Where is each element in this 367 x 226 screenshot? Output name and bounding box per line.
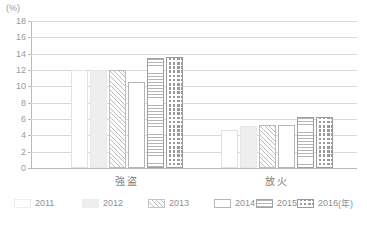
bar-2015-強盗 bbox=[147, 58, 165, 168]
y-axis-tick bbox=[28, 70, 31, 71]
legend-label-2014: 2014 bbox=[235, 198, 255, 208]
bar-2014-強盗 bbox=[128, 82, 146, 168]
plot-area: 024681012141618 bbox=[31, 21, 357, 168]
legend-swatch-2013 bbox=[148, 199, 165, 208]
legend-swatch-2014 bbox=[214, 199, 231, 208]
legend-label-2016: 2016 bbox=[318, 198, 338, 208]
bar-2013-放火 bbox=[259, 125, 277, 168]
y-axis-tick bbox=[28, 152, 31, 153]
y-axis-tick-label: 14 bbox=[16, 49, 26, 59]
bar-2015-放火 bbox=[297, 117, 315, 168]
y-axis-tick bbox=[28, 21, 31, 22]
bar-2016-強盗 bbox=[166, 57, 184, 168]
y-axis-tick-label: 6 bbox=[21, 114, 26, 124]
y-axis-tick bbox=[28, 54, 31, 55]
legend-item-2012[interactable]: 2012 bbox=[82, 196, 123, 210]
bar-chart: (%) 024681012141618 20112012201320142015… bbox=[0, 0, 367, 226]
legend-item-2011[interactable]: 2011 bbox=[14, 196, 54, 210]
legend-label-2013: 2013 bbox=[169, 198, 189, 208]
legend-item-2013[interactable]: 2013 bbox=[148, 196, 189, 210]
y-axis-tick bbox=[28, 86, 31, 87]
bar-2012-放火 bbox=[240, 126, 258, 168]
bar-2011-強盗 bbox=[71, 70, 89, 168]
y-axis-tick-label: 4 bbox=[21, 130, 26, 140]
legend-swatch-2016 bbox=[297, 199, 314, 208]
y-axis-tick-label: 10 bbox=[16, 81, 26, 91]
bar-2011-放火 bbox=[221, 130, 239, 168]
legend-swatch-2012 bbox=[82, 199, 99, 208]
chart-legend: 201120122013201420152016(年) bbox=[0, 196, 367, 218]
legend-swatch-2015 bbox=[256, 199, 273, 208]
x-axis-category-label: 強盗 bbox=[115, 173, 139, 188]
y-axis-tick bbox=[28, 37, 31, 38]
x-axis-category-label: 放火 bbox=[265, 173, 289, 188]
x-axis-line bbox=[31, 168, 357, 169]
y-axis-tick-label: 16 bbox=[16, 32, 26, 42]
y-axis-tick-label: 2 bbox=[21, 147, 26, 157]
legend-item-2016[interactable]: 2016 bbox=[297, 196, 338, 210]
y-axis-tick bbox=[28, 119, 31, 120]
y-axis-tick bbox=[28, 135, 31, 136]
y-axis-tick bbox=[28, 103, 31, 104]
y-axis-tick bbox=[28, 168, 31, 169]
legend-unit-label: (年) bbox=[338, 196, 353, 210]
bar-2012-強盗 bbox=[90, 70, 108, 168]
legend-item-2015[interactable]: 2015 bbox=[256, 196, 297, 210]
y-axis-tick-label: 18 bbox=[16, 16, 26, 26]
y-axis-tick-label: 0 bbox=[21, 163, 26, 173]
bar-2013-強盗 bbox=[109, 70, 127, 168]
bar-group bbox=[221, 21, 334, 168]
bar-group bbox=[71, 21, 184, 168]
legend-label-2012: 2012 bbox=[103, 198, 123, 208]
legend-label-2011: 2011 bbox=[35, 198, 54, 208]
legend-swatch-2011 bbox=[14, 199, 31, 208]
legend-label-2015: 2015 bbox=[277, 198, 297, 208]
y-axis-tick-label: 8 bbox=[21, 98, 26, 108]
bar-2014-放火 bbox=[278, 125, 296, 168]
y-axis-tick-label: 12 bbox=[16, 65, 26, 75]
legend-item-2014[interactable]: 2014 bbox=[214, 196, 255, 210]
bar-2016-放火 bbox=[316, 117, 334, 168]
y-axis-unit-label: (%) bbox=[6, 3, 20, 13]
